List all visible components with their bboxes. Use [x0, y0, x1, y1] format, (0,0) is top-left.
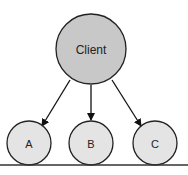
node-client: Client — [56, 14, 126, 84]
node-a: A — [7, 121, 51, 165]
node-c-label: C — [151, 138, 159, 150]
edge-client-a — [42, 80, 70, 126]
node-client-label: Client — [76, 43, 107, 57]
node-b: B — [69, 121, 113, 165]
node-b-label: B — [87, 138, 94, 150]
diagram-canvas: Client A B C — [0, 0, 188, 175]
node-c: C — [133, 121, 177, 165]
edge-client-c — [112, 80, 141, 126]
node-a-label: A — [25, 138, 33, 150]
